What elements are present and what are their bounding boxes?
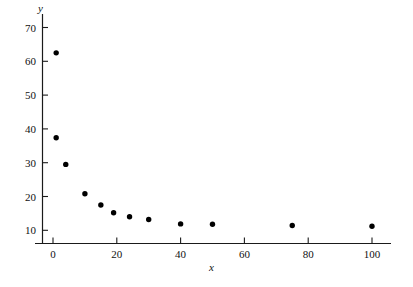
y-axis-title: y bbox=[38, 3, 43, 14]
x-axis-title: x bbox=[209, 262, 214, 273]
y-tick-label-20: 20 bbox=[2, 191, 36, 202]
chart-canvas bbox=[0, 0, 413, 287]
data-point bbox=[369, 224, 374, 229]
data-point bbox=[290, 223, 295, 228]
x-tick-label-100: 100 bbox=[364, 249, 381, 260]
x-tick-label-20: 20 bbox=[111, 249, 122, 260]
y-tick-label-60: 60 bbox=[2, 56, 36, 67]
data-point bbox=[127, 214, 132, 219]
x-tick-label-40: 40 bbox=[175, 249, 186, 260]
data-point bbox=[82, 191, 87, 196]
y-tick-label-10: 10 bbox=[2, 225, 36, 236]
data-point-group bbox=[53, 50, 374, 229]
data-point bbox=[111, 210, 116, 215]
data-point bbox=[98, 202, 103, 207]
y-tick-label-50: 50 bbox=[2, 90, 36, 101]
data-point bbox=[146, 217, 151, 222]
y-tick-label-30: 30 bbox=[2, 157, 36, 168]
data-point bbox=[63, 162, 68, 167]
x-axis-ticks bbox=[53, 238, 372, 244]
x-tick-label-0: 0 bbox=[50, 249, 56, 260]
data-point bbox=[178, 221, 183, 226]
x-tick-label-80: 80 bbox=[303, 249, 314, 260]
data-point bbox=[53, 50, 58, 55]
y-axis-ticks bbox=[43, 28, 49, 231]
data-point bbox=[53, 135, 58, 140]
plot-area: 70 60 50 40 30 20 10 0 20 40 60 80 100 y… bbox=[0, 0, 413, 287]
y-tick-label-40: 40 bbox=[2, 123, 36, 134]
y-tick-label-70: 70 bbox=[2, 22, 36, 33]
x-tick-label-60: 60 bbox=[239, 249, 250, 260]
data-point bbox=[210, 222, 215, 227]
scatter-plot-figure: 70 60 50 40 30 20 10 0 20 40 60 80 100 y… bbox=[0, 0, 413, 287]
